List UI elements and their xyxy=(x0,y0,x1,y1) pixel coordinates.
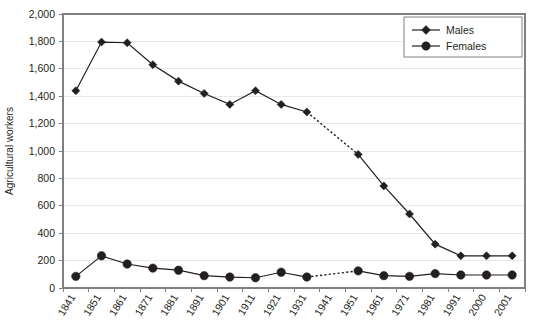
y-tick-label: 2,000 xyxy=(29,8,55,20)
series-line-segment xyxy=(76,42,307,112)
x-tick-label: 2001 xyxy=(491,292,514,318)
data-point-marker-circle xyxy=(123,260,131,268)
x-tick-label: 1931 xyxy=(286,292,309,318)
data-point-marker-circle xyxy=(149,264,157,272)
y-tick-label: 1,800 xyxy=(29,35,55,47)
series-line-segment xyxy=(76,256,307,278)
x-tick-label: 1971 xyxy=(389,292,412,318)
x-tick-label: 1871 xyxy=(132,292,155,318)
legend-marker-females-circle-icon xyxy=(422,42,430,50)
data-point-marker-diamond xyxy=(508,252,516,260)
data-point-marker-diamond xyxy=(457,252,465,260)
data-point-marker-circle xyxy=(508,271,516,279)
x-tick-label: 1891 xyxy=(183,292,206,318)
y-axis-title: Agricultural workers xyxy=(4,107,15,195)
y-tick-label: 200 xyxy=(37,254,55,266)
data-point-marker-circle xyxy=(277,268,285,276)
x-tick-label: 1881 xyxy=(158,292,181,318)
x-tick-label: 1901 xyxy=(209,292,232,318)
x-tick-label: 1841 xyxy=(55,292,78,318)
y-tick-label: 1,600 xyxy=(29,62,55,74)
data-point-marker-circle xyxy=(380,271,388,279)
y-tick-label: 1,000 xyxy=(29,145,55,157)
data-point-marker-diamond xyxy=(277,100,285,108)
data-point-marker-diamond xyxy=(98,38,106,46)
series-line-gap-dashed xyxy=(307,271,358,277)
data-point-marker-diamond xyxy=(483,252,491,260)
data-point-marker-circle xyxy=(251,274,259,282)
x-tick-label: 1851 xyxy=(81,292,104,318)
y-axis-tick-labels: 02004006008001,0001,2001,4001,6001,8002,… xyxy=(29,8,55,294)
series-males xyxy=(72,38,516,260)
data-point-marker-circle xyxy=(174,266,182,274)
y-tick-label: 1,200 xyxy=(29,117,55,129)
legend-label-males: Males xyxy=(446,24,474,36)
data-point-marker-circle xyxy=(457,271,465,279)
x-tick-label: 1951 xyxy=(337,292,360,318)
data-point-marker-circle xyxy=(303,273,311,281)
series-line-gap-dashed xyxy=(307,112,358,154)
series-females xyxy=(72,252,517,282)
y-tick-label: 800 xyxy=(37,172,55,184)
x-tick-label: 1981 xyxy=(414,292,437,318)
x-tick-label: 1911 xyxy=(235,292,257,318)
x-tick-label: 1991 xyxy=(440,292,463,318)
x-tick-label: 2000 xyxy=(466,292,489,318)
x-tick-label: 1861 xyxy=(106,292,129,318)
data-point-marker-circle xyxy=(405,272,413,280)
data-point-marker-circle xyxy=(431,269,439,277)
y-tick-label: 400 xyxy=(37,227,55,239)
data-point-marker-diamond xyxy=(175,77,183,85)
x-tick-label: 1961 xyxy=(363,292,386,318)
chart-canvas: 02004006008001,0001,2001,4001,6001,8002,… xyxy=(0,0,541,321)
data-point-marker-circle xyxy=(226,273,234,281)
x-tick-label: 1941 xyxy=(312,292,335,318)
data-point-marker-circle xyxy=(482,271,490,279)
agricultural-workers-line-chart: 02004006008001,0001,2001,4001,6001,8002,… xyxy=(0,0,541,321)
chart-legend: Males Females xyxy=(404,17,522,57)
y-tick-label: 0 xyxy=(49,282,55,294)
y-tick-label: 1,400 xyxy=(29,90,55,102)
data-point-marker-diamond xyxy=(72,87,80,95)
x-tick-label: 1921 xyxy=(260,292,283,318)
data-point-marker-circle xyxy=(72,272,80,280)
x-axis-tick-labels: 1841185118611871188118911901191119211931… xyxy=(55,292,514,318)
data-point-marker-diamond xyxy=(226,100,234,108)
gridlines xyxy=(63,41,525,260)
data-point-marker-circle xyxy=(200,271,208,279)
data-point-marker-circle xyxy=(354,267,362,275)
data-point-marker-diamond xyxy=(252,87,260,95)
y-tick-label: 600 xyxy=(37,199,55,211)
data-point-marker-circle xyxy=(97,252,105,260)
data-point-marker-diamond xyxy=(303,108,311,116)
legend-label-females: Females xyxy=(446,40,486,52)
